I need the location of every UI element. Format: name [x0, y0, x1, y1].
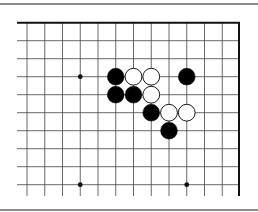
black-stone-icon: [107, 86, 124, 103]
white-stone-icon: [143, 86, 160, 103]
white-stone-icon: [125, 68, 142, 85]
black-stone-icon: [178, 68, 195, 85]
white-stone-icon: [161, 104, 178, 121]
star-point-icon: [184, 182, 189, 187]
black-stone-icon: [161, 122, 178, 139]
star-point-icon: [78, 182, 83, 187]
black-stone-icon: [125, 86, 142, 103]
white-stone-icon: [178, 104, 195, 121]
black-stone-icon: [143, 104, 160, 121]
star-point-icon: [78, 74, 83, 79]
go-board: [0, 0, 258, 212]
board-grid: [17, 23, 240, 196]
white-stone-icon: [143, 68, 160, 85]
black-stone-icon: [107, 68, 124, 85]
